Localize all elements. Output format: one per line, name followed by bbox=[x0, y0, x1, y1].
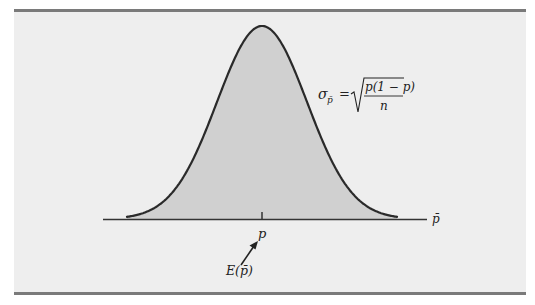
top-rule bbox=[14, 9, 526, 12]
formula-denominator: n bbox=[380, 99, 388, 113]
expected-value-label: E(p̄) bbox=[225, 263, 253, 278]
svg-text:p̄: p̄ bbox=[432, 212, 440, 226]
sampling-distribution-figure: p̄ p E(p̄) σ p̄ = p(1 − p) n bbox=[0, 0, 535, 305]
center-label-p: p bbox=[258, 226, 267, 241]
bottom-rule bbox=[14, 292, 526, 295]
formula-numerator: p(1 − p) bbox=[365, 80, 415, 94]
formula-equals: = bbox=[339, 86, 350, 101]
formula-subscript: p̄ bbox=[327, 95, 333, 105]
axis-label-p-bar: p̄ bbox=[432, 212, 440, 226]
